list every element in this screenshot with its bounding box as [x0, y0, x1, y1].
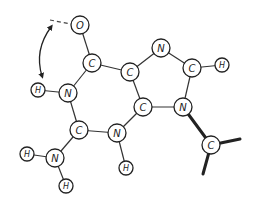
atom-C4: C [134, 98, 152, 116]
atom-label: C [189, 63, 196, 74]
molecule-diagram: OCCNCHNCNHCNHNHHC [0, 0, 253, 200]
atom-C5: C [121, 63, 139, 81]
atom-label: O [76, 20, 84, 31]
atom-label: N [179, 102, 187, 113]
atom-H2b: H [59, 179, 73, 193]
atom-C6: C [83, 54, 101, 72]
atom-N3: N [108, 124, 126, 142]
atom-label: H [63, 182, 69, 191]
atom-N9: N [174, 98, 192, 116]
hydrogen-bond-dashed-line [50, 20, 71, 24]
atom-N2: N [46, 149, 64, 167]
atom-label: C [208, 140, 215, 151]
atom-C8: C [183, 59, 201, 77]
atom-label: H [24, 150, 30, 159]
annotations [39, 20, 71, 76]
atom-C2: C [70, 121, 88, 139]
atom-label: N [51, 153, 59, 164]
atom-label: H [219, 61, 225, 70]
atom-label: N [64, 88, 72, 99]
atom-label: C [127, 67, 134, 78]
atom-label: H [123, 164, 129, 173]
atom-label: C [89, 58, 96, 69]
atom-label: N [157, 43, 165, 54]
atom-label: N [113, 128, 121, 139]
atom-N1: N [59, 84, 77, 102]
atom-label: C [140, 102, 147, 113]
atom-N7: N [152, 39, 170, 57]
atom-O1: O [71, 16, 89, 34]
atom-H2a: H [20, 147, 34, 161]
atom-H3: H [119, 161, 133, 175]
atom-label: C [76, 125, 83, 136]
double-headed-arrow-icon [39, 27, 51, 76]
atom-label: H [35, 86, 41, 95]
atom-C1p: C [202, 136, 220, 154]
atoms: OCCNCHNCNHCNHNHHC [20, 16, 229, 193]
atom-H8: H [215, 58, 229, 72]
atom-H1: H [31, 83, 45, 97]
